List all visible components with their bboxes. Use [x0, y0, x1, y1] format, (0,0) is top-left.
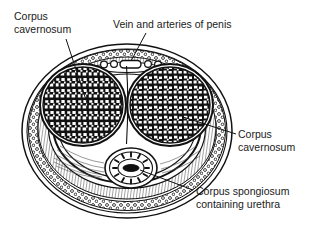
dorsal-artery-right [145, 61, 152, 68]
label-vein-and-arteries-of-penis: Vein and arteries of penis [113, 18, 232, 31]
corpus-cavernosum-left [40, 64, 126, 146]
dorsal-artery-left [111, 61, 118, 68]
label-line-1: Corpus spongiosum [196, 185, 289, 198]
corpus-cavernosum-right [127, 64, 213, 146]
urethra [123, 165, 139, 172]
label-line-2: containing urethra [196, 198, 289, 211]
label-line-2: cavernosum [14, 23, 71, 36]
label-corpus-spongiosum-containing-urethra: Corpus spongiosum containing urethra [196, 185, 289, 210]
label-line-2: cavernosum [238, 141, 295, 154]
deep-dorsal-vein [120, 61, 141, 69]
label-line-1: Corpus [238, 128, 295, 141]
label-line-1: Vein and arteries of penis [113, 18, 232, 31]
label-corpus-cavernosum-right: Corpus cavernosum [238, 128, 295, 153]
label-line-1: Corpus [14, 10, 71, 23]
label-corpus-cavernosum-left: Corpus cavernosum [14, 10, 71, 35]
corpus-spongiosum [105, 148, 157, 188]
